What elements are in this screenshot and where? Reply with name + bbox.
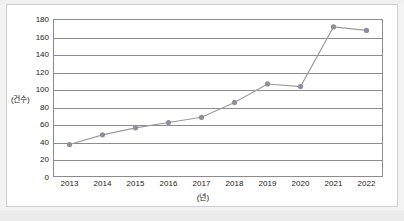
x-tick-label: 2020: [292, 179, 310, 188]
y-tick-label: 0: [45, 173, 49, 182]
data-point-2021: [331, 24, 336, 29]
x-tick-label: 2014: [94, 179, 112, 188]
data-point-2018: [232, 100, 237, 105]
data-point-2014: [100, 132, 105, 137]
data-point-2017: [199, 115, 204, 120]
data-series-layer: [53, 19, 383, 177]
y-tick-label: 20: [40, 155, 49, 164]
scan-band-bottom: [0, 210, 404, 221]
y-tick-label: 40: [40, 137, 49, 146]
data-point-2022: [364, 28, 369, 33]
y-tick-label: 80: [40, 102, 49, 111]
data-point-2013: [67, 142, 72, 147]
x-tick-label: 2021: [325, 179, 343, 188]
x-tick-label: 2017: [193, 179, 211, 188]
data-point-2015: [133, 125, 138, 130]
data-point-2016: [166, 120, 171, 125]
data-point-2019: [265, 81, 270, 86]
x-axis-title: (년): [7, 191, 399, 202]
y-tick-label: 140: [36, 50, 49, 59]
screenshot-root: (건수) 180 160 140 120 100 80 60 40 20 0: [0, 0, 404, 221]
x-tick-label: 2018: [226, 179, 244, 188]
series-markers: [67, 24, 369, 147]
x-tick-label: 2013: [61, 179, 79, 188]
figure-card: (건수) 180 160 140 120 100 80 60 40 20 0: [6, 4, 398, 207]
y-tick-label: 180: [36, 15, 49, 24]
y-tick-label: 60: [40, 120, 49, 129]
x-tick-label: 2019: [259, 179, 277, 188]
series-line-건수: [70, 27, 367, 145]
chart-plot-wrapper: (건수) 180 160 140 120 100 80 60 40 20 0: [7, 5, 399, 208]
y-axis-tick-labels: 180 160 140 120 100 80 60 40 20 0: [23, 19, 49, 177]
x-tick-label: 2022: [358, 179, 376, 188]
x-tick-label: 2016: [160, 179, 178, 188]
y-tick-label: 160: [36, 32, 49, 41]
data-point-2020: [298, 84, 303, 89]
x-tick-label: 2015: [127, 179, 145, 188]
y-tick-label: 120: [36, 67, 49, 76]
y-tick-label: 100: [36, 85, 49, 94]
